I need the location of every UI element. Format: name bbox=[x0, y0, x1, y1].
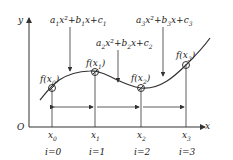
f-x2-label: f(x2) bbox=[131, 74, 150, 85]
f-x0-label: f(x0) bbox=[40, 75, 59, 86]
index-3-label: i=3 bbox=[179, 148, 195, 157]
polynomial-2-label: a2x²+b2x+c2 bbox=[96, 39, 153, 50]
f-x3-label: f(x3) bbox=[176, 51, 195, 62]
polynomial-3-label: a3x²+b3x+c3 bbox=[136, 16, 193, 27]
x-axis-label: x bbox=[205, 122, 210, 131]
index-2-label: i=2 bbox=[134, 148, 150, 157]
index-0-label: i=0 bbox=[45, 148, 61, 157]
f-x1-label: f(x1) bbox=[86, 59, 105, 70]
x1-tick-label: x1 bbox=[91, 131, 100, 142]
x2-tick-label: x2 bbox=[137, 131, 146, 142]
origin-label: O bbox=[17, 123, 24, 132]
x3-tick-label: x3 bbox=[182, 131, 191, 142]
index-1-label: i=1 bbox=[89, 148, 105, 157]
y-axis-label: y bbox=[18, 16, 23, 25]
polynomial-1-label: a1x²+b1x+c1 bbox=[50, 16, 107, 27]
x0-tick-label: x0 bbox=[48, 131, 57, 142]
spline-diagram bbox=[0, 0, 233, 160]
